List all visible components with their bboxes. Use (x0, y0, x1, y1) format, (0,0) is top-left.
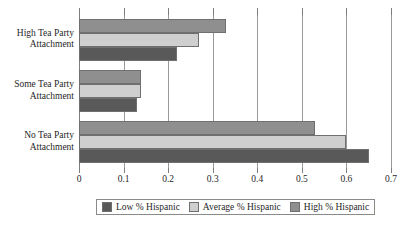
legend-swatch-icon (189, 202, 199, 212)
legend-item[interactable]: Low % Hispanic (102, 202, 180, 212)
bar-group (79, 117, 391, 168)
bar-group (79, 65, 391, 116)
x-axis-tick-bottom (124, 168, 125, 173)
category-label-line: High Tea Party (0, 28, 74, 40)
bar (79, 70, 141, 84)
category-label-line: Attachment (0, 142, 74, 154)
x-axis-tick-bottom (213, 168, 214, 173)
x-axis-tick-bottom (257, 168, 258, 173)
legend-item[interactable]: High % Hispanic (290, 202, 369, 212)
x-axis-tick-label: 0.5 (296, 174, 308, 184)
bar (79, 47, 177, 61)
x-axis-tick-label: 0.2 (162, 174, 174, 184)
x-axis-tick-labels: 00.10.20.30.40.50.60.7 (0, 174, 409, 188)
bar (79, 98, 137, 112)
category-label-line: Attachment (0, 39, 74, 51)
legend-label: High % Hispanic (304, 202, 369, 212)
x-axis-tick-label: 0.7 (385, 174, 397, 184)
category-label-line: Attachment (0, 91, 74, 103)
x-axis-tick-label: 0.1 (118, 174, 130, 184)
bar (79, 19, 226, 33)
chart-legend: Low % HispanicAverage % HispanicHigh % H… (96, 199, 375, 215)
bar (79, 33, 199, 47)
x-axis-tick-label: 0.4 (251, 174, 263, 184)
category-label-line: No Tea Party (0, 130, 74, 142)
category-label: Some Tea PartyAttachment (0, 79, 74, 102)
legend-item[interactable]: Average % Hispanic (189, 202, 281, 212)
legend-label: Average % Hispanic (203, 202, 281, 212)
legend-swatch-icon (290, 202, 300, 212)
category-label-line: Some Tea Party (0, 79, 74, 91)
bar-chart: High Tea PartyAttachmentSome Tea PartyAt… (0, 0, 409, 230)
bar-group (79, 14, 391, 65)
x-axis-tick-bottom (302, 168, 303, 173)
x-axis-tick-bottom (168, 168, 169, 173)
x-axis-tick-top (391, 8, 392, 15)
legend-label: Low % Hispanic (116, 202, 180, 212)
bar (79, 121, 315, 135)
x-axis-tick-bottom (346, 168, 347, 173)
plot-area (79, 14, 391, 168)
legend-swatch-icon (102, 202, 112, 212)
bar (79, 149, 369, 163)
gridline (391, 14, 392, 168)
x-axis-tick-label: 0 (77, 174, 82, 184)
bar (79, 135, 346, 149)
x-axis-tick-label: 0.3 (207, 174, 219, 184)
x-axis-tick-label: 0.6 (340, 174, 352, 184)
x-axis-tick-bottom (391, 168, 392, 173)
x-axis-tick-bottom (79, 168, 80, 173)
bar (79, 84, 141, 98)
category-label: High Tea PartyAttachment (0, 28, 74, 51)
category-label: No Tea PartyAttachment (0, 130, 74, 153)
